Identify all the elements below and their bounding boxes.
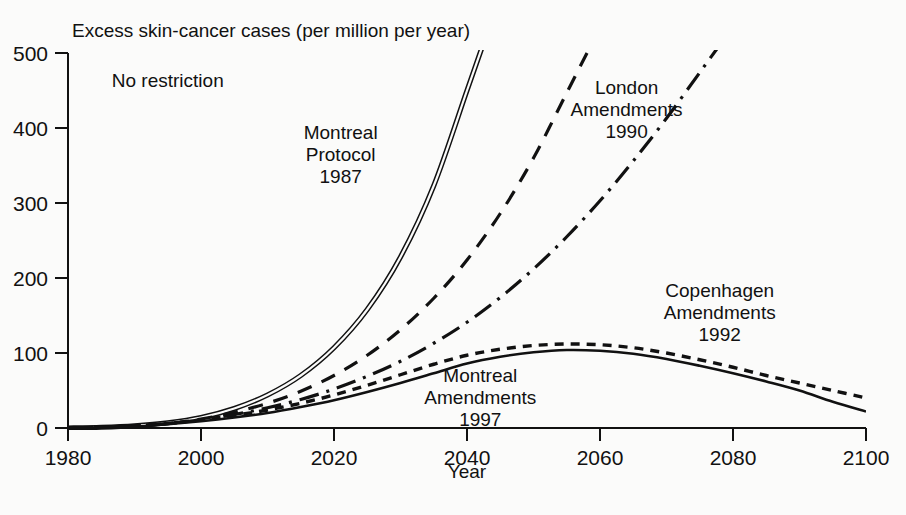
x-tick-label: 2080 <box>710 446 757 469</box>
y-tick-label: 100 <box>13 342 48 365</box>
x-tick-label: 2060 <box>577 446 624 469</box>
x-axis-title: Year <box>448 461 487 482</box>
x-tick-label: 2000 <box>178 446 225 469</box>
y-tick-label: 200 <box>13 267 48 290</box>
line-chart: 0100200300400500 19802000202020402060208… <box>0 0 906 515</box>
y-tick-label: 500 <box>13 42 48 65</box>
x-tick-label: 2100 <box>843 446 890 469</box>
series-label-0: No restriction <box>112 70 224 91</box>
x-tick-label: 2020 <box>311 446 358 469</box>
y-tick-label: 300 <box>13 192 48 215</box>
chart-page: 0100200300400500 19802000202020402060208… <box>0 0 906 515</box>
plot-title: Excess skin-cancer cases (per million pe… <box>72 20 470 41</box>
y-tick-label: 400 <box>13 117 48 140</box>
y-tick-label: 0 <box>36 417 48 440</box>
x-tick-label: 1980 <box>45 446 92 469</box>
